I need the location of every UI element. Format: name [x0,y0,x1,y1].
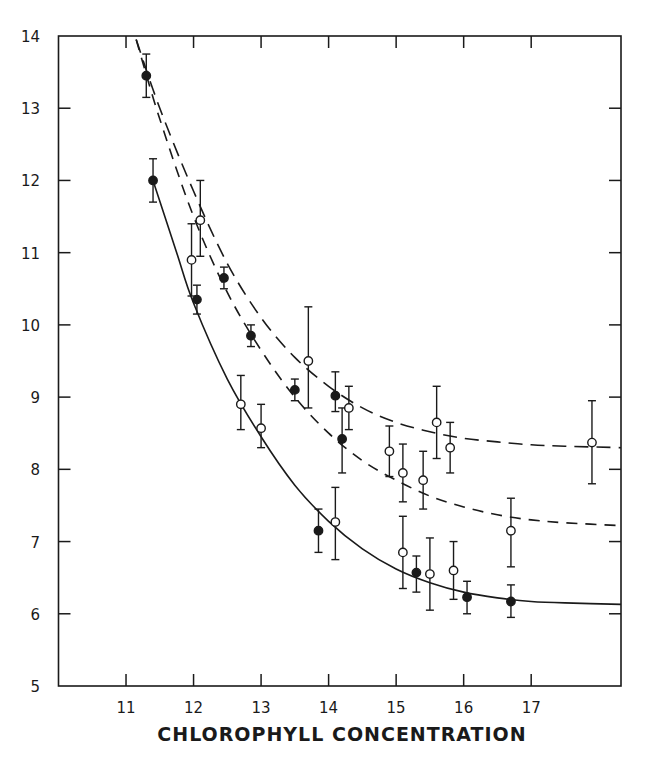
filled-circle-marker [331,391,339,399]
open-circle-marker [304,357,312,365]
filled-circle-marker [220,274,228,282]
open-circle-marker [237,400,245,408]
x-tick-label: 11 [116,699,135,717]
filled-circle-marker [149,176,157,184]
open-circle-marker [449,566,457,574]
open-circle-marker [385,447,393,455]
x-tick-label: 13 [252,699,271,717]
open-circle-marker [419,476,427,484]
y-tick-label: 11 [21,245,40,263]
y-tick-label: 13 [21,100,40,118]
open-circle-marker [446,443,454,451]
y-tick-label: 6 [30,606,40,624]
y-tick-label: 9 [30,389,40,407]
open-circle-marker [196,216,204,224]
chart: 567891011121314 11121314151617 CHLOROPHY… [0,0,646,759]
open-circle-marker [187,256,195,264]
x-tick-label: 15 [387,699,406,717]
open-circle-marker [399,548,407,556]
filled-circle-marker [412,568,420,576]
filled-circle-marker [291,386,299,394]
x-tick-label: 17 [522,699,541,717]
open-circle-marker [588,438,596,446]
filled-circle-marker [338,435,346,443]
x-tick-label: 12 [184,699,203,717]
y-tick-label: 5 [30,678,40,696]
y-tick-label: 10 [21,317,40,335]
open-circle-marker [331,518,339,526]
filled-circle-marker [507,597,515,605]
x-axis-label: CHLOROPHYLL CONCENTRATION [157,723,526,745]
filled-circle-marker [314,527,322,535]
x-tick-label: 14 [319,699,338,717]
y-tick-label: 8 [30,461,40,479]
open-circle-marker [257,424,265,432]
open-circle-marker [432,418,440,426]
filled-circle-marker [142,72,150,80]
y-tick-label: 14 [21,28,40,46]
open-circle-marker [507,527,515,535]
open-circle-marker [426,570,434,578]
y-tick-label: 7 [30,534,40,552]
x-tick-label: 16 [454,699,473,717]
filled-circle-marker [463,593,471,601]
open-circle-marker [399,469,407,477]
filled-circle-marker [247,332,255,340]
open-circle-marker [345,404,353,412]
background [0,0,646,759]
y-tick-label: 12 [21,172,40,190]
